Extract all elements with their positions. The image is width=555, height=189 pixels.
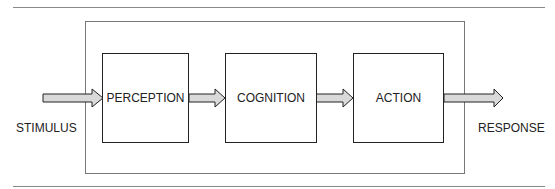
- perception-to-cognition-arrow-icon: [189, 89, 225, 107]
- response-label: RESPONSE: [478, 121, 545, 135]
- action-label: ACTION: [376, 91, 421, 105]
- perception-box: PERCEPTION: [102, 53, 189, 143]
- stimulus-arrow-icon: [43, 89, 103, 107]
- cognition-label: COGNITION: [237, 91, 305, 105]
- action-box: ACTION: [353, 53, 444, 143]
- cognition-to-action-arrow-icon: [316, 89, 353, 107]
- cognition-box: COGNITION: [225, 53, 317, 143]
- stimulus-label: STIMULUS: [16, 121, 77, 135]
- response-arrow-icon: [444, 89, 503, 107]
- perception-label: PERCEPTION: [106, 91, 184, 105]
